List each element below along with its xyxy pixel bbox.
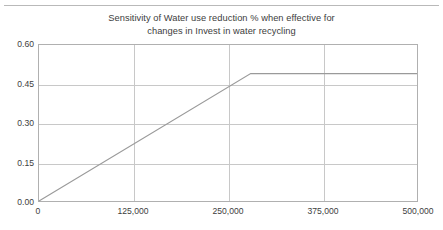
series-line-layer [39,45,417,201]
y-axis-tick-label: 0.30 [0,118,34,128]
x-axis-tick-label: 500,000 [402,206,433,216]
y-axis-tick-label: 0.60 [0,39,34,49]
y-axis-tick-label: 0.45 [0,79,34,89]
chart-title: Sensitivity of Water use reduction % whe… [20,12,423,37]
x-axis-tick-label: 125,000 [117,206,148,216]
y-axis-tick-labels: 0.000.150.300.450.60 [0,44,34,202]
y-axis-tick-label: 0.15 [0,158,34,168]
plot-area [38,44,418,202]
x-axis-tick-label: 0 [36,206,41,216]
x-axis-tick-label: 250,000 [212,206,243,216]
series-line-water-use-reduction [39,74,417,201]
y-axis-tick-label: 0.00 [0,197,34,207]
chart-title-line-1: Sensitivity of Water use reduction % whe… [20,12,423,25]
chart-title-line-2: changes in Invest in water recycling [20,25,423,38]
x-axis-tick-label: 375,000 [307,206,338,216]
x-axis-tick-labels: 0125,000250,000375,000500,000 [38,206,418,220]
chart-figure: Sensitivity of Water use reduction % whe… [0,0,443,230]
top-divider-rule [4,5,439,6]
